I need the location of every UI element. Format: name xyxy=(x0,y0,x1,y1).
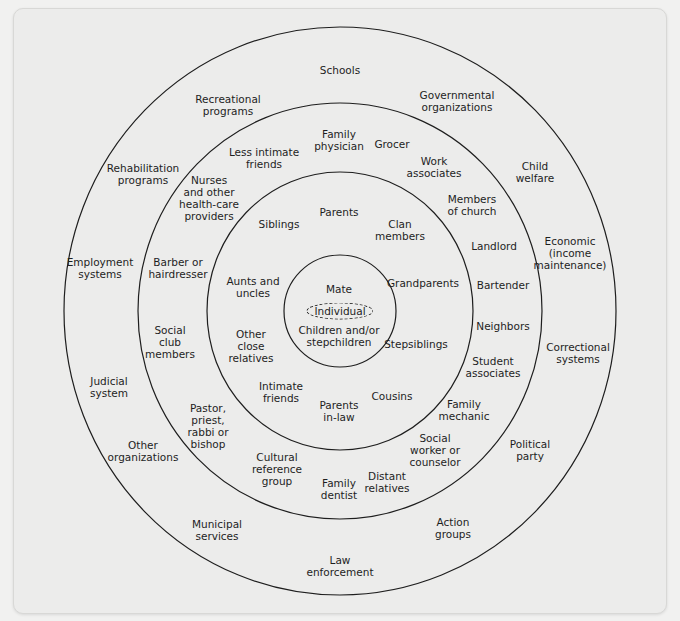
label-landlord: Landlord xyxy=(471,240,517,252)
label-line: Recreational xyxy=(195,93,261,105)
label-line: Other xyxy=(228,328,273,340)
label-line: Intimate xyxy=(259,380,303,392)
label-recreational-programs: Recreationalprograms xyxy=(195,93,261,117)
label-line: Nurses xyxy=(179,174,239,186)
label-line: worker or xyxy=(409,444,460,456)
label-line: organizations xyxy=(420,101,495,113)
label-line: hairdresser xyxy=(148,268,207,280)
label-line: Family xyxy=(439,398,490,410)
label-family-dentist: Familydentist xyxy=(321,477,357,501)
label-line: Landlord xyxy=(471,240,517,252)
label-line: dentist xyxy=(321,489,357,501)
label-line: Economic xyxy=(534,235,607,247)
label-social-worker: Socialworker orcounselor xyxy=(409,432,460,468)
label-correctional-systems: Correctionalsystems xyxy=(546,341,610,365)
individual-core-label: Individual xyxy=(306,303,373,320)
label-line: members xyxy=(375,230,425,242)
label-line: Social xyxy=(145,324,195,336)
label-line: group xyxy=(252,475,302,487)
label-line: health-care xyxy=(179,198,239,210)
label-schools: Schools xyxy=(320,64,360,76)
label-line: providers xyxy=(179,210,239,222)
label-nurses: Nursesand otherhealth-careproviders xyxy=(179,174,239,222)
label-cultural-reference-group: Culturalreferencegroup xyxy=(252,451,302,487)
label-line: of church xyxy=(447,205,496,217)
label-barber: Barber orhairdresser xyxy=(148,256,207,280)
label-distant-relatives: Distantrelatives xyxy=(364,470,409,494)
label-line: Political xyxy=(510,438,550,450)
label-line: Governmental xyxy=(420,89,495,101)
label-line: Parents xyxy=(319,206,358,218)
label-line: stepchildren xyxy=(298,336,379,348)
label-line: associates xyxy=(407,167,462,179)
label-line: services xyxy=(192,530,242,542)
label-mate: Mate xyxy=(326,283,352,295)
label-line: Mate xyxy=(326,283,352,295)
label-line: programs xyxy=(195,105,261,117)
label-intimate-friends: Intimatefriends xyxy=(259,380,303,404)
label-line: Other xyxy=(108,439,179,451)
label-family-physician: Familyphysician xyxy=(314,128,364,152)
label-family-mechanic: Familymechanic xyxy=(439,398,490,422)
label-grocer: Grocer xyxy=(374,138,409,150)
label-line: Clan xyxy=(375,218,425,230)
label-line: Less intimate xyxy=(229,146,299,158)
label-line: Correctional xyxy=(546,341,610,353)
label-neighbors: Neighbors xyxy=(476,320,529,332)
label-line: friends xyxy=(229,158,299,170)
label-line: Schools xyxy=(320,64,360,76)
label-student-associates: Studentassociates xyxy=(466,355,521,379)
label-line: Grandparents xyxy=(387,277,459,289)
label-line: associates xyxy=(466,367,521,379)
label-parents-in-law: Parentsin-law xyxy=(319,399,358,423)
label-line: party xyxy=(510,450,550,462)
label-line: Cultural xyxy=(252,451,302,463)
label-grandparents: Grandparents xyxy=(387,277,459,289)
label-line: organizations xyxy=(108,451,179,463)
label-line: relatives xyxy=(228,352,273,364)
label-parents: Parents xyxy=(319,206,358,218)
label-line: Judicial xyxy=(90,375,128,387)
label-line: physician xyxy=(314,140,364,152)
label-other-organizations: Otherorganizations xyxy=(108,439,179,463)
label-line: priest, xyxy=(187,414,228,426)
label-line: and other xyxy=(179,186,239,198)
label-line: Parents xyxy=(319,399,358,411)
label-line: Law xyxy=(306,554,373,566)
label-line: reference xyxy=(252,463,302,475)
label-bartender: Bartender xyxy=(477,279,530,291)
label-line: Grocer xyxy=(374,138,409,150)
label-governmental-organizations: Governmentalorganizations xyxy=(420,89,495,113)
label-action-groups: Actiongroups xyxy=(435,516,471,540)
label-line: Neighbors xyxy=(476,320,529,332)
label-other-close-relatives: Othercloserelatives xyxy=(228,328,273,364)
label-line: friends xyxy=(259,392,303,404)
label-line: in-law xyxy=(319,411,358,423)
label-line: Municipal xyxy=(192,518,242,530)
label-line: bishop xyxy=(187,438,228,450)
label-line: Bartender xyxy=(477,279,530,291)
label-line: systems xyxy=(546,353,610,365)
label-clan-members: Clanmembers xyxy=(375,218,425,242)
label-line: counselor xyxy=(409,456,460,468)
label-line: Family xyxy=(321,477,357,489)
label-line: Social xyxy=(409,432,460,444)
label-political-party: Politicalparty xyxy=(510,438,550,462)
label-line: Members xyxy=(447,193,496,205)
label-economic: Economic(incomemaintenance) xyxy=(534,235,607,271)
label-line: rabbi or xyxy=(187,426,228,438)
label-line: Children and/or xyxy=(298,324,379,336)
label-line: Rehabilitation xyxy=(107,162,179,174)
label-pastor: Pastor,priest,rabbi orbishop xyxy=(187,402,228,450)
label-line: Work xyxy=(407,155,462,167)
label-child-welfare: Childwelfare xyxy=(516,160,555,184)
label-employment-systems: Employmentsystems xyxy=(67,256,134,280)
label-line: Child xyxy=(516,160,555,172)
label-line: close xyxy=(228,340,273,352)
label-line: Student xyxy=(466,355,521,367)
label-line: Barber or xyxy=(148,256,207,268)
label-line: Cousins xyxy=(372,390,413,402)
label-members-of-church: Membersof church xyxy=(447,193,496,217)
label-line: Employment xyxy=(67,256,134,268)
label-line: uncles xyxy=(226,287,279,299)
